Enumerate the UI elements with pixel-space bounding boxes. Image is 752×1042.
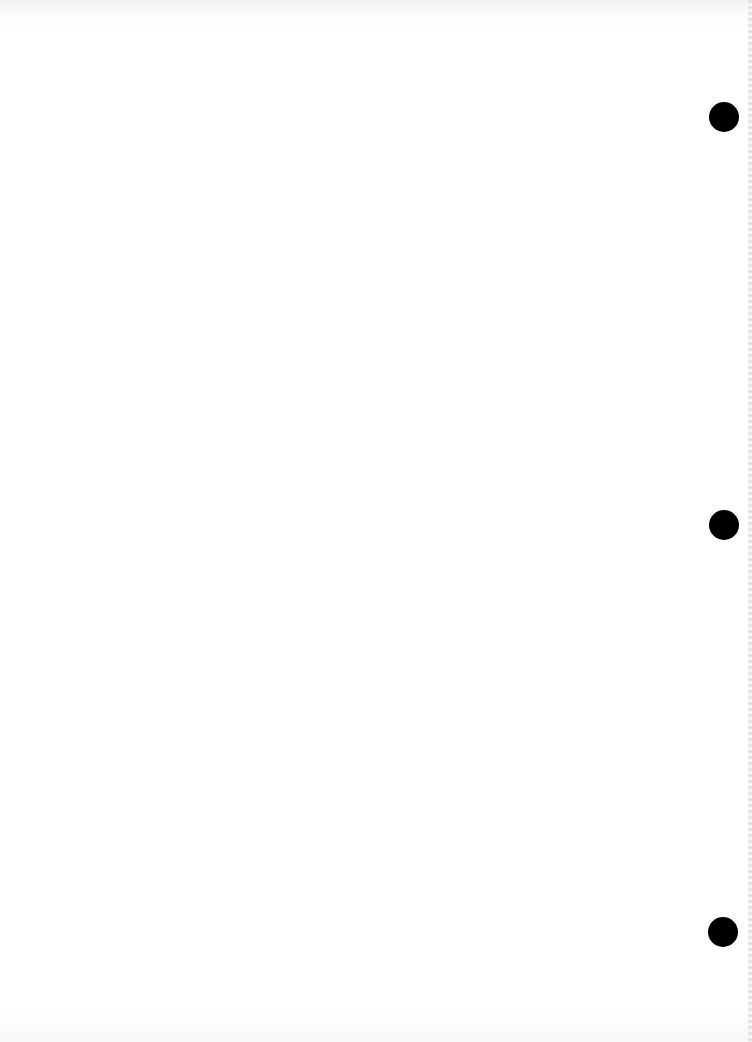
punch-hole-bottom xyxy=(708,917,738,947)
scanned-page xyxy=(0,0,752,1042)
punch-hole-top xyxy=(709,102,739,132)
punch-hole-middle xyxy=(709,510,739,540)
page-edge xyxy=(748,0,752,1042)
